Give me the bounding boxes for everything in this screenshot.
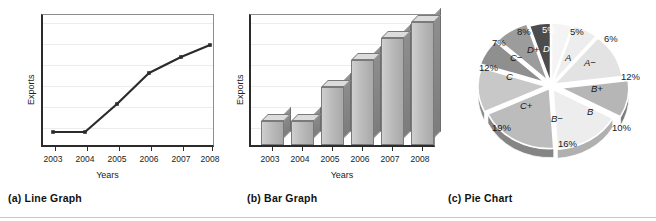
line-graph-caption: (a) Line Graph [8, 192, 82, 204]
pie-slice-percent-label: 8% [517, 26, 531, 37]
bar-side-face [314, 107, 321, 138]
x-tick-label: 2008 [405, 154, 435, 164]
pie-slice-grade-label: A− [584, 57, 596, 68]
bar-graph-x-axis-title: Years [249, 170, 435, 180]
bar [351, 60, 374, 145]
bar-side-face [374, 46, 381, 138]
pie-slice-grade-label: B+ [591, 83, 603, 94]
pie-slice-grade-label: D [543, 43, 550, 54]
panel-bar-graph: Exports 200320042005200620072008 Years (… [215, 0, 440, 221]
bar-side-face [404, 24, 411, 138]
pie-slice-percent-label: 19% [492, 122, 511, 133]
pie-slice-percent-label: 6% [604, 33, 618, 44]
x-tick-label: 2004 [70, 154, 100, 164]
bar [261, 121, 284, 145]
pie-slice-percent-label: 12% [479, 62, 498, 73]
x-tick-label: 2005 [315, 154, 345, 164]
pie-slice-grade-label: A [565, 52, 571, 63]
x-tick-label: 2006 [134, 154, 164, 164]
data-point-marker [208, 43, 212, 47]
pie-slice-grade-label: D+ [527, 44, 539, 55]
x-tick [332, 146, 333, 151]
bar [411, 22, 434, 145]
data-point-marker [115, 102, 119, 106]
pie-slice-grade-label: C [506, 71, 513, 82]
bar [381, 38, 404, 145]
x-tick-label: 2003 [38, 154, 68, 164]
bar-front-face [261, 121, 284, 145]
bar [291, 121, 314, 145]
pie-slice-percent-label: 5% [542, 24, 556, 35]
bar-graph-plot-frame [249, 14, 435, 147]
pie-slice-percent-label: 5% [570, 26, 584, 37]
pie-slice-grade-label: C− [510, 52, 522, 63]
figure-row: Exports 200320042005200620072008 Years (… [0, 0, 656, 221]
bar-front-face [321, 87, 344, 145]
x-tick [362, 146, 363, 151]
x-tick-label: 2003 [255, 154, 285, 164]
x-tick-label: 2006 [345, 154, 375, 164]
x-tick-label: 2007 [375, 154, 405, 164]
line-path [53, 45, 210, 132]
gridline [251, 23, 434, 24]
bar-front-face [351, 60, 374, 145]
pie-slice-grade-label: B [587, 106, 593, 117]
x-tick [302, 146, 303, 151]
x-tick [422, 146, 423, 151]
data-point-marker [179, 55, 183, 59]
line-graph-series [0, 0, 215, 180]
data-point-marker [83, 130, 87, 134]
pie-slice-percent-label: 10% [612, 122, 631, 133]
x-tick-label: 2004 [285, 154, 315, 164]
x-tick-label: 2007 [166, 154, 196, 164]
bar [321, 87, 344, 145]
pie-slice-percent-label: 7% [492, 37, 506, 48]
x-tick-label: 2005 [102, 154, 132, 164]
bar-front-face [291, 121, 314, 145]
bar-graph-y-axis-title: Exports [235, 74, 245, 105]
x-tick [392, 146, 393, 151]
line-graph-x-axis-title: Years [0, 170, 215, 180]
figure-bottom-rule [0, 217, 656, 218]
bar-front-face [411, 22, 434, 145]
pie-slice-percent-label: 16% [558, 138, 577, 149]
bar-front-face [381, 38, 404, 145]
bar-graph-caption: (b) Bar Graph [247, 192, 317, 204]
bar-side-face [284, 107, 291, 138]
panel-pie-chart: 5%A6%A−12%B+10%B16%B−19%C+12%C7%C−8%D+5%… [440, 0, 656, 221]
x-tick [272, 146, 273, 151]
pie-slice-grade-label: C+ [520, 100, 532, 111]
pie-slice-percent-label: 12% [621, 71, 640, 82]
pie-slice-grade-label: B− [551, 113, 563, 124]
pie-chart-area: 5%A6%A−12%B+10%B16%B−19%C+12%C7%C−8%D+5%… [440, 0, 656, 180]
pie-chart-caption: (c) Pie Chart [448, 192, 512, 204]
data-point-marker [147, 71, 151, 75]
panel-line-graph: Exports 200320042005200620072008 Years (… [0, 0, 215, 221]
data-point-marker [51, 130, 55, 134]
